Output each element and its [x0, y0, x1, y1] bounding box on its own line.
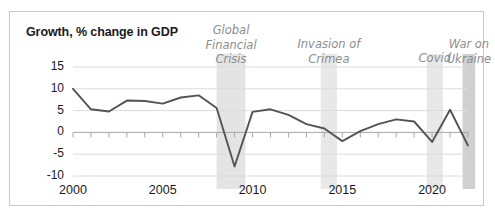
x-axis-tick-label: 2020 [409, 183, 455, 197]
x-axis-tick-label: 2000 [50, 183, 96, 197]
event-band-invasion-of-crimea [321, 54, 337, 189]
annotation-label-war-on-ukraine: War on Ukraine [423, 37, 495, 66]
event-band-war-on-ukraine [463, 54, 476, 189]
x-axis-tick-label: 2010 [230, 183, 276, 197]
y-axis-tick-label: 10 [30, 81, 64, 95]
annotation-label-invasion-of-crimea: Invasion of Crimea [283, 37, 375, 66]
gdp-growth-line [73, 89, 468, 167]
y-axis-tick-label: -10 [30, 168, 64, 182]
x-axis-tick-label: 2005 [140, 183, 186, 197]
y-axis-tick-label: -5 [30, 146, 64, 160]
chart-frame: Growth, % change in GDP 151050-5-1020002… [9, 11, 484, 206]
event-band-covid [427, 54, 443, 189]
y-axis-tick-label: 0 [30, 124, 64, 138]
annotation-label-global-financial-crisis: Global Financial Crisis [185, 23, 277, 67]
x-axis-tick-label: 2015 [319, 183, 365, 197]
y-axis-tick-label: 5 [30, 103, 64, 117]
y-axis-tick-label: 15 [30, 59, 64, 73]
